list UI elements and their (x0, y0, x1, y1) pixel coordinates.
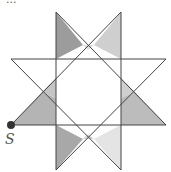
point-s (7, 121, 15, 129)
star-diagram (0, 0, 171, 172)
point-label: S (5, 131, 15, 147)
